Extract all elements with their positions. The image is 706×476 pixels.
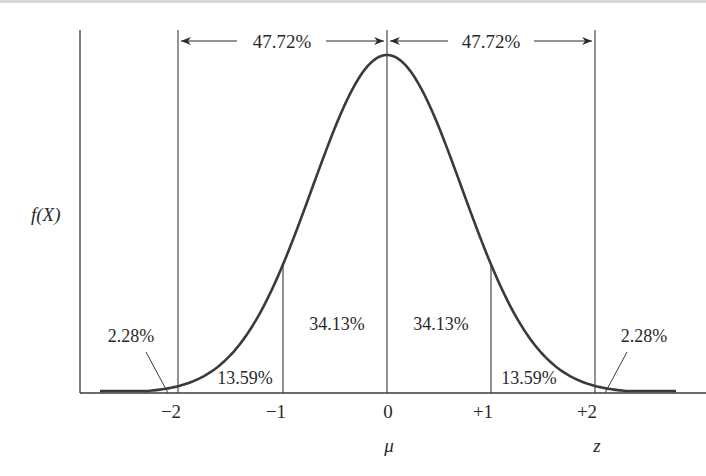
region-label-right-tail: 2.28% bbox=[621, 326, 668, 346]
bell-curve bbox=[100, 55, 676, 391]
x-tick-minus-2: −2 bbox=[161, 401, 181, 422]
region-label-minus1-0: 34.13% bbox=[309, 314, 365, 334]
mean-label: μ bbox=[383, 435, 394, 456]
callout-line-left-tail bbox=[146, 352, 168, 393]
x-tick-0: 0 bbox=[383, 401, 393, 422]
normal-distribution-chart: 47.72% 47.72% 2.28% 13.59% 34.13% 34.13%… bbox=[0, 0, 706, 476]
region-label-minus2-minus1: 13.59% bbox=[217, 368, 273, 388]
callout-line-right-tail bbox=[605, 352, 627, 393]
x-tick-plus-1: +1 bbox=[473, 401, 493, 422]
x-axis-label: z bbox=[592, 435, 601, 456]
y-axis-label: f(X) bbox=[31, 204, 61, 226]
x-tick-minus-1: −1 bbox=[266, 401, 286, 422]
region-label-plus1-plus2: 13.59% bbox=[501, 368, 557, 388]
span-label-left: 47.72% bbox=[253, 31, 312, 52]
x-tick-plus-2: +2 bbox=[577, 401, 597, 422]
region-label-left-tail: 2.28% bbox=[108, 326, 155, 346]
span-label-right: 47.72% bbox=[462, 31, 521, 52]
region-label-0-plus1: 34.13% bbox=[413, 314, 469, 334]
